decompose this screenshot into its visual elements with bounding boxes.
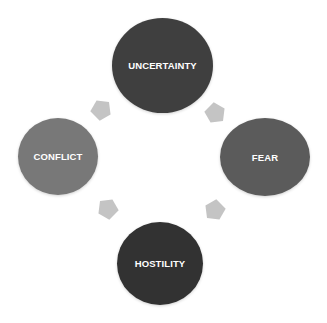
node-label-hostility: HOSTILITY [135,258,186,269]
arrow-fear-to-hostility-icon [198,195,229,226]
node-hostility: HOSTILITY [117,222,203,305]
arrow-uncertainty-to-fear-icon [200,98,231,129]
node-uncertainty: UNCERTAINTY [112,18,213,113]
node-label-conflict: CONFLICT [34,151,83,162]
node-label-uncertainty: UNCERTAINTY [128,60,196,71]
node-label-fear: FEAR [252,152,278,163]
arrow-hostility-to-conflict-icon [91,192,122,223]
arrow-conflict-to-uncertainty-icon [86,93,117,124]
node-conflict: CONFLICT [18,118,98,195]
node-fear: FEAR [220,118,310,196]
